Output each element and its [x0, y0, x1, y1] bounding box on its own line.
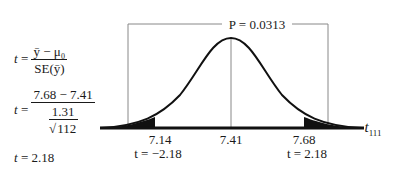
p-value-label: P = 0.0313: [226, 18, 288, 31]
tick-7-68: 7.68: [293, 133, 316, 146]
axis-label: t111: [364, 120, 381, 138]
bracket-left: [128, 24, 222, 127]
formula-result: t = 2.18: [14, 151, 54, 164]
bracket-right: [292, 24, 328, 127]
t-distribution-plot: [0, 0, 396, 171]
formula-substitution: t = 7.68 − 7.41 1.31 √112: [14, 88, 95, 135]
tick-t-neg: t = −2.18: [134, 147, 182, 160]
tick-7-14: 7.14: [149, 133, 172, 146]
tick-t-pos: t = 2.18: [287, 147, 327, 160]
tick-7-41: 7.41: [220, 133, 243, 146]
formula-definition: t = ȳ − μ₀SE(ȳ): [14, 45, 67, 75]
